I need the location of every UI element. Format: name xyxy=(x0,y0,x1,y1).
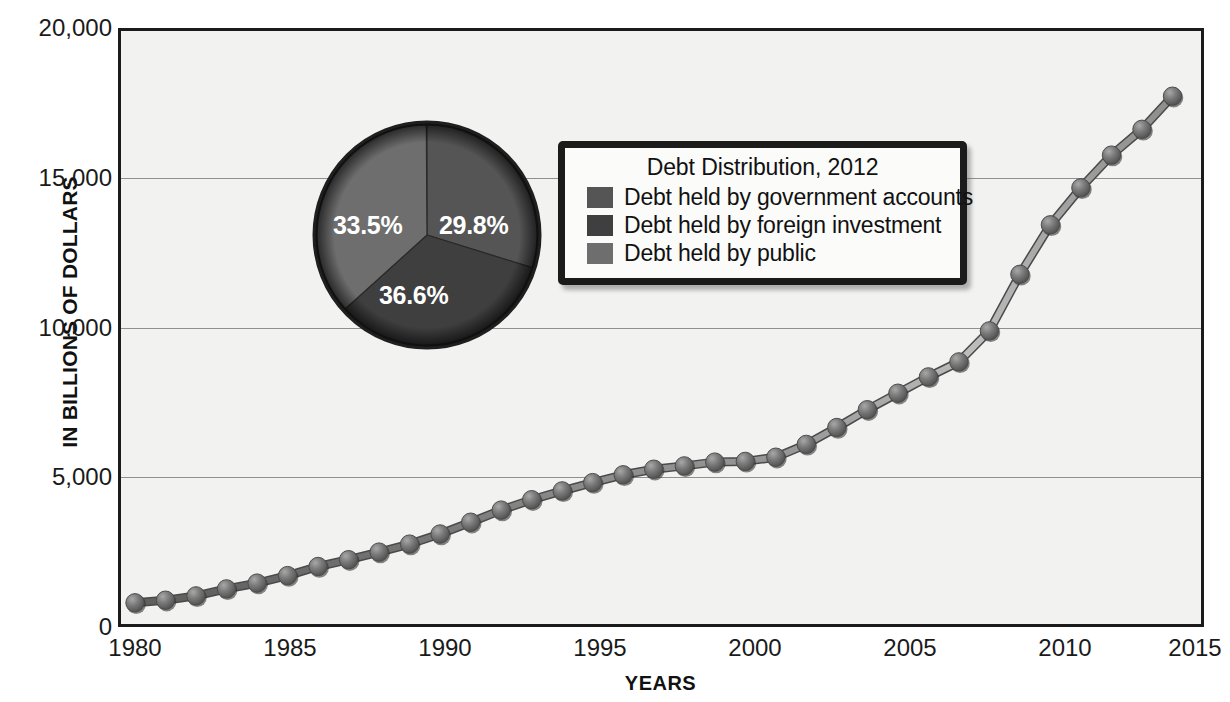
y-tick-label: 5,000 xyxy=(4,465,112,489)
legend-swatch-icon xyxy=(587,187,613,208)
legend-item-label: Debt held by government accounts xyxy=(624,184,973,211)
debt-chart-figure: IN BILLIONS OF DOLLARS 20,000 15,000 10,… xyxy=(0,0,1230,702)
legend-item-label: Debt held by public xyxy=(624,240,816,267)
y-tick-label: 10,000 xyxy=(4,316,112,340)
legend-swatch-icon xyxy=(587,215,613,236)
y-tick-label: 15,000 xyxy=(4,166,112,190)
legend-item-government-accounts: Debt held by government accounts xyxy=(587,184,950,211)
line-series-debt xyxy=(121,31,1204,627)
pie-slice-label-government: 29.8% xyxy=(439,211,508,240)
pie-chart-inset: 29.8% 33.5% 36.6% xyxy=(311,119,543,351)
legend-item-label: Debt held by foreign investment xyxy=(624,212,941,239)
y-axis-tick-labels: 20,000 15,000 10,000 5,000 0 xyxy=(0,0,112,702)
x-tick-label: 1990 xyxy=(385,634,505,662)
x-tick-label: 2015 xyxy=(1135,634,1230,662)
x-tick-label: 2005 xyxy=(850,634,970,662)
x-tick-label: 1985 xyxy=(230,634,350,662)
pie-slice-label-public: 36.6% xyxy=(379,281,448,310)
pie-slice-label-foreign: 33.5% xyxy=(333,211,402,240)
legend-swatch-icon xyxy=(587,243,613,264)
x-tick-label: 2000 xyxy=(695,634,815,662)
y-tick-label: 20,000 xyxy=(4,16,112,40)
legend: Debt Distribution, 2012 Debt held by gov… xyxy=(558,141,967,285)
x-tick-label: 2010 xyxy=(1005,634,1125,662)
plot-area: 29.8% 33.5% 36.6% Debt Distribution, 201… xyxy=(118,28,1204,627)
x-tick-label: 1995 xyxy=(540,634,660,662)
legend-item-public: Debt held by public xyxy=(587,240,950,267)
x-axis-title: YEARS xyxy=(118,672,1203,695)
legend-title: Debt Distribution, 2012 xyxy=(575,154,950,181)
legend-item-foreign-investment: Debt held by foreign investment xyxy=(587,212,950,239)
x-tick-label: 1980 xyxy=(75,634,195,662)
